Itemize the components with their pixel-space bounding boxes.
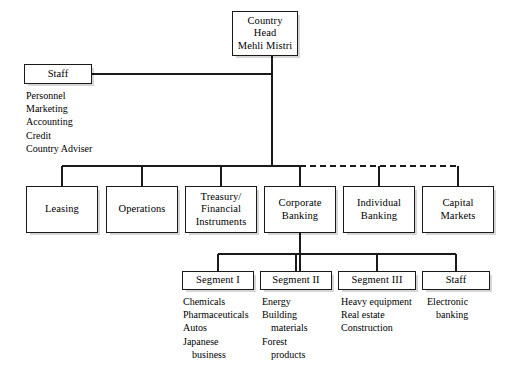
list-segment-1-industries: ChemicalsPharmaceuticalsAutosJapanesebus… — [183, 295, 263, 361]
list-line: business — [183, 348, 263, 361]
node-capital-markets-label: Capital Markets — [438, 197, 477, 222]
list-line: Electronic — [427, 295, 497, 308]
node-staff-segment-label: Staff — [444, 274, 469, 286]
list-line: Chemicals — [183, 295, 263, 308]
node-leasing-label: Leasing — [43, 203, 81, 215]
list-line: Autos — [183, 321, 263, 334]
list-line: Accounting — [26, 115, 166, 128]
list-line: Real estate — [341, 308, 425, 321]
node-corporate-banking[interactable]: Corporate Banking — [264, 186, 336, 233]
node-segment-3-label: Segment III — [350, 274, 405, 286]
node-staff-segment[interactable]: Staff — [422, 271, 490, 290]
list-line: Forest — [262, 335, 340, 348]
list-line: Personnel — [26, 89, 166, 102]
node-leasing[interactable]: Leasing — [26, 186, 98, 233]
list-line: Country Adviser — [26, 142, 166, 155]
list-line: Japanese — [183, 335, 263, 348]
node-treasury-financial-instruments[interactable]: Treasury/ Financial Instruments — [185, 186, 257, 233]
node-operations[interactable]: Operations — [106, 186, 178, 233]
node-individual-banking[interactable]: Individual Banking — [343, 186, 415, 233]
node-treasury-label: Treasury/ Financial Instruments — [194, 191, 249, 228]
node-country-head-label: Country Head Mehli Mistri — [236, 15, 295, 52]
node-country-head[interactable]: Country Head Mehli Mistri — [232, 11, 298, 56]
node-staff-top-label: Staff — [46, 68, 71, 80]
list-line: Energy — [262, 295, 340, 308]
node-staff-top[interactable]: Staff — [24, 64, 92, 84]
list-line: Building — [262, 308, 340, 321]
node-capital-markets[interactable]: Capital Markets — [422, 186, 494, 233]
list-staff-functions: PersonnelMarketingAccountingCreditCountr… — [26, 89, 166, 155]
node-segment-1[interactable]: Segment I — [182, 271, 254, 290]
list-segment-3-industries: Heavy equipmentReal estateConstruction — [341, 295, 425, 335]
node-segment-3[interactable]: Segment III — [338, 271, 416, 290]
list-line: banking — [427, 308, 497, 321]
list-segment-2-industries: EnergyBuildingmaterialsForestproducts — [262, 295, 340, 361]
node-individual-banking-label: Individual Banking — [355, 197, 403, 222]
list-line: materials — [262, 321, 340, 334]
node-segment-2-label: Segment II — [270, 274, 321, 286]
list-staff-segment-services: Electronicbanking — [427, 295, 497, 321]
node-segment-2[interactable]: Segment II — [260, 271, 332, 290]
list-line: Pharmaceuticals — [183, 308, 263, 321]
list-line: products — [262, 348, 340, 361]
list-line: Construction — [341, 321, 425, 334]
list-line: Heavy equipment — [341, 295, 425, 308]
list-line: Marketing — [26, 102, 166, 115]
node-segment-1-label: Segment I — [194, 274, 242, 286]
list-line: Credit — [26, 129, 166, 142]
node-corporate-banking-label: Corporate Banking — [277, 197, 324, 222]
node-operations-label: Operations — [116, 203, 167, 215]
